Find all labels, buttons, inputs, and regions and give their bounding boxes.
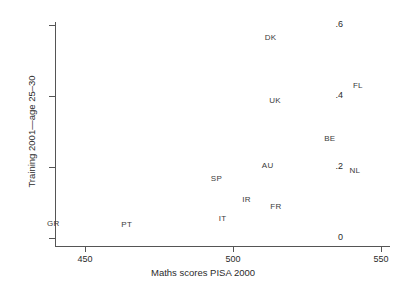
data-point-label-dk: DK [265,34,277,42]
data-point-label-au: AU [262,162,274,170]
x-tick-mark [85,246,86,252]
y-tick-mark [49,25,55,26]
y-tick-label: .2 [335,162,343,171]
y-tick-label: .4 [335,91,343,100]
scatter-plot-figure: 450500550 DKFLUKBEAUNLSPIRFRITPTGR Maths… [0,0,406,289]
y-tick-label: 0 [338,233,343,242]
y-tick-mark [49,96,55,97]
y-tick-label: .6 [335,20,343,29]
data-point-label-it: IT [219,215,227,223]
data-point-label-ir: IR [242,196,251,204]
data-point-label-gr: GR [47,220,60,228]
data-point-label-nl: NL [350,167,361,175]
x-axis-title: Maths scores PISA 2000 [0,267,406,278]
data-point-label-fr: FR [270,203,281,211]
data-point-label-fl: FL [353,82,363,90]
y-tick-mark [49,238,55,239]
y-axis-title: Training 2001—age 25–30 [26,47,37,217]
x-tick-label: 450 [77,254,92,264]
x-tick-mark [233,246,234,252]
x-tick-label: 550 [373,254,388,264]
x-tick-mark [381,246,382,252]
y-axis-line [55,22,56,247]
x-axis-line [55,246,390,247]
data-point-label-be: BE [324,135,335,143]
y-tick-mark [49,167,55,168]
plot-area [55,22,390,246]
y-axis-ticks [0,0,49,289]
data-point-label-uk: UK [269,97,281,105]
data-point-label-pt: PT [121,221,132,229]
x-tick-label: 500 [225,254,240,264]
data-point-label-sp: SP [211,175,222,183]
